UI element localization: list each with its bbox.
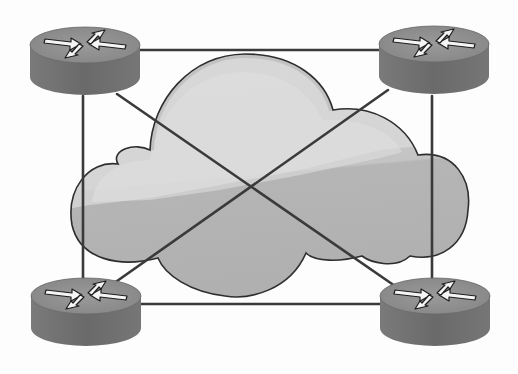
network-diagram: Four routers in a full-mesh topology aro… <box>0 0 518 374</box>
router-icon-bottom-right <box>380 278 490 346</box>
router-icon-top-left <box>30 27 140 95</box>
router-icon-bottom-left <box>31 278 141 346</box>
router-icon-top-right <box>379 26 489 94</box>
diagram-canvas <box>0 0 518 374</box>
